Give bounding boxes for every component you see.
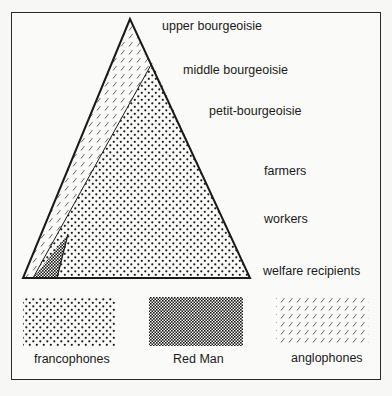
legend-label-anglophones: anglophones <box>291 351 363 365</box>
legend-label-red-man: Red Man <box>173 352 224 366</box>
level-petit-bourgeoisie: petit-bourgeoisie <box>209 104 301 118</box>
level-middle-bourgeoisie: middle bourgeoisie <box>183 63 288 77</box>
class-pyramid <box>0 0 392 396</box>
legend-swatch-red-man <box>149 297 243 346</box>
level-upper-bourgeoisie: upper bourgeoisie <box>162 19 262 33</box>
legend-label-francophones: francophones <box>34 352 110 366</box>
level-farmers: farmers <box>264 164 306 178</box>
legend-swatch-anglophones <box>276 297 369 346</box>
level-workers: workers <box>264 212 308 226</box>
legend-swatch-francophones <box>23 297 116 346</box>
level-welfare-recipients: welfare recipients <box>263 264 360 278</box>
